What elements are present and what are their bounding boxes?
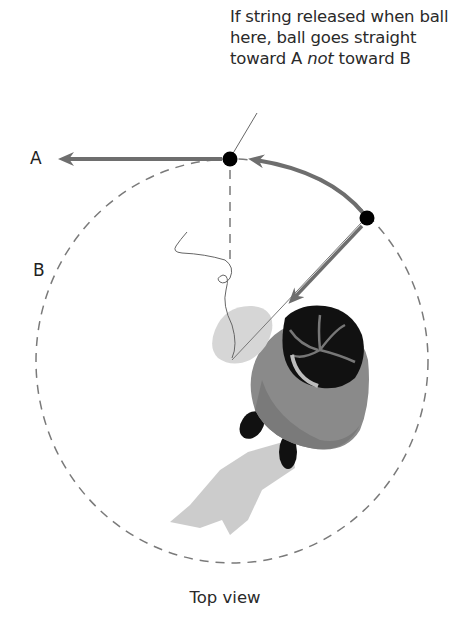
caption-line-3: toward A not toward B <box>230 48 450 69</box>
footer-caption: Top view <box>0 588 450 607</box>
caption-line-1: If string released when ball <box>230 6 450 27</box>
caption-line-2: here, ball goes straight <box>230 27 450 48</box>
circular-motion-diagram <box>0 0 450 625</box>
ball-top <box>223 152 238 167</box>
caption-annotation: If string released when ball here, ball … <box>230 6 450 69</box>
caption-emphasis: not <box>307 49 333 68</box>
label-b: B <box>33 260 45 280</box>
label-a: A <box>30 148 42 168</box>
caption-leader-line <box>232 113 257 155</box>
diagram-canvas: If string released when ball here, ball … <box>0 0 450 625</box>
person-shadow <box>170 440 295 535</box>
curved-motion-arrow <box>256 160 364 214</box>
tension-arrow <box>294 226 362 298</box>
ball-right <box>360 211 375 226</box>
